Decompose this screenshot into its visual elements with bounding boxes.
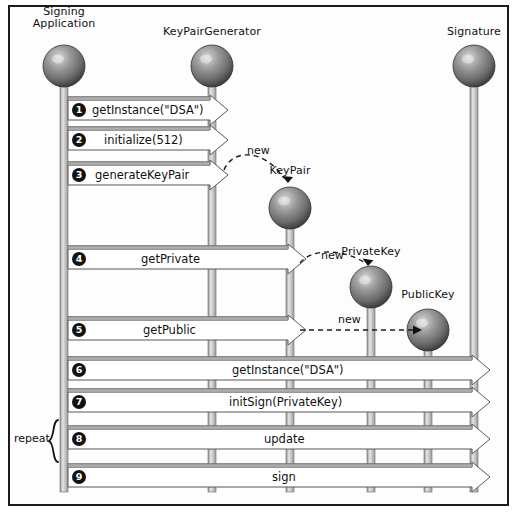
message-number-1: 1 <box>72 103 86 117</box>
message-number-6: 6 <box>72 363 86 377</box>
participant-label-keypair: KeyPair <box>230 165 350 177</box>
creation-arrowhead-new-keypair <box>282 176 293 183</box>
object-sphere-highlight-privatekey <box>359 276 371 285</box>
message-number-3: 3 <box>72 168 86 182</box>
object-sphere-highlight-signature <box>462 55 474 64</box>
object-sphere-keypairgenerator[interactable] <box>191 45 233 87</box>
message-arrow-shadow-9 <box>68 464 472 468</box>
message-label-4: getPrivate <box>141 252 200 266</box>
sequence-diagram-canvas: SigningApplicationKeyPairGeneratorKeyPai… <box>0 0 517 515</box>
message-label-9: sign <box>272 470 296 484</box>
message-number-5: 5 <box>72 323 86 337</box>
message-label-3: generateKeyPair <box>95 168 189 182</box>
repeat-annotation-label: repeat <box>14 432 50 445</box>
message-arrow-shadow-6 <box>68 357 472 361</box>
creation-label-new-privatekey: new <box>321 249 344 262</box>
object-sphere-signature[interactable] <box>453 45 495 87</box>
object-sphere-keypair[interactable] <box>269 187 311 229</box>
lifeline-signing-application <box>60 83 68 492</box>
message-arrow-shadow-5 <box>68 317 288 321</box>
participant-label-signing-application-line2: Application <box>4 18 124 30</box>
object-sphere-highlight-keypairgenerator <box>200 55 212 64</box>
message-arrow-shadow-1 <box>68 97 210 101</box>
message-number-4: 4 <box>72 252 86 266</box>
message-number-9: 9 <box>72 470 86 484</box>
object-sphere-signing-application[interactable] <box>43 45 85 87</box>
participant-label-signature: Signature <box>414 26 517 38</box>
message-label-2: initialize(512) <box>104 133 183 147</box>
message-label-5: getPublic <box>143 323 196 337</box>
creation-arrowhead-new-privatekey <box>362 259 373 267</box>
creation-label-new-publickey: new <box>338 313 361 326</box>
message-label-6: getInstance("DSA") <box>232 363 344 377</box>
message-arrow-shadow-3 <box>68 162 210 166</box>
message-arrow-shadow-2 <box>68 127 210 131</box>
object-sphere-highlight-signing-application <box>52 55 64 64</box>
message-label-1: getInstance("DSA") <box>92 103 204 117</box>
message-number-2: 2 <box>72 133 86 147</box>
message-number-7: 7 <box>72 395 86 409</box>
creation-label-new-keypair: new <box>247 144 270 157</box>
participant-label-signing-application: SigningApplication <box>4 6 124 30</box>
message-number-8: 8 <box>72 432 86 446</box>
repeat-bracket <box>49 420 58 462</box>
message-label-8: update <box>264 432 305 446</box>
object-sphere-highlight-keypair <box>278 197 290 206</box>
object-sphere-highlight-publickey <box>416 319 428 328</box>
object-sphere-privatekey[interactable] <box>350 266 392 308</box>
message-arrow-shadow-7 <box>68 389 472 393</box>
participant-label-publickey: PublicKey <box>368 289 488 301</box>
participant-label-keypairgenerator: KeyPairGenerator <box>152 26 272 38</box>
message-label-7: initSign(PrivateKey) <box>229 395 342 409</box>
message-arrow-shadow-4 <box>68 246 288 250</box>
message-arrow-shadow-8 <box>68 426 472 430</box>
